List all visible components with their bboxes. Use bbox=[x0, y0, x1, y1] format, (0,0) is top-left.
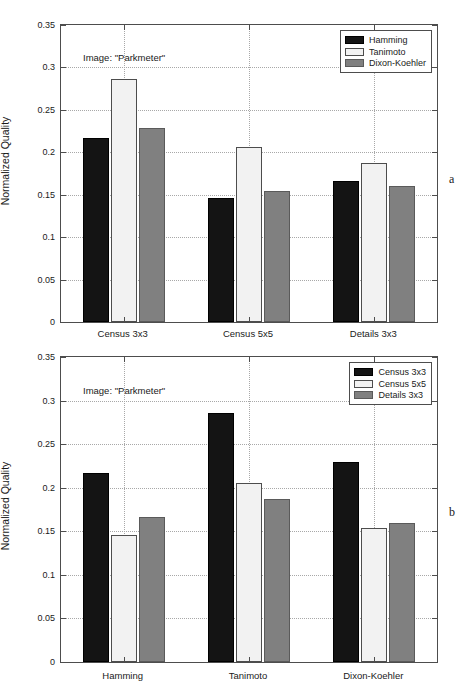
legend-swatch bbox=[354, 391, 373, 399]
legend-label: Census 5x5 bbox=[378, 379, 426, 389]
x-tick-mark bbox=[249, 25, 250, 30]
bar bbox=[236, 147, 262, 322]
figure: Normalized Quality 00.050.10.150.20.250.… bbox=[0, 0, 473, 699]
bar bbox=[361, 528, 387, 662]
y-tick-label: 0.15 bbox=[37, 526, 55, 536]
y-axis-label-a: Normalized Quality bbox=[0, 117, 11, 206]
y-axis-label-b: Normalized Quality bbox=[0, 462, 11, 551]
y-tick-mark bbox=[432, 152, 437, 153]
legend-item: Dixon-Koehler bbox=[345, 58, 426, 69]
legend-swatch bbox=[345, 59, 364, 67]
y-tick-label: 0.25 bbox=[37, 439, 55, 449]
x-tick-mark bbox=[249, 357, 250, 362]
y-tick-label: 0.35 bbox=[37, 20, 55, 30]
legend-label: Dixon-Koehler bbox=[369, 58, 426, 68]
plot-annotation: Image: "Parkmeter" bbox=[83, 385, 165, 396]
x-tick-label: Hamming bbox=[102, 670, 143, 681]
bar bbox=[264, 191, 290, 322]
gridline-horizontal bbox=[61, 444, 437, 445]
x-tick-label: Details 3x3 bbox=[350, 328, 397, 339]
y-tick-mark bbox=[432, 195, 437, 196]
y-tick-mark bbox=[61, 618, 66, 619]
y-tick-mark bbox=[61, 322, 66, 323]
bar bbox=[139, 517, 165, 662]
y-tick-mark bbox=[432, 25, 437, 26]
y-tick-label: 0.2 bbox=[42, 147, 55, 157]
y-tick-label: 0.05 bbox=[37, 275, 55, 285]
bar bbox=[83, 138, 109, 322]
y-tick-mark bbox=[61, 401, 66, 402]
x-tick-mark bbox=[249, 317, 250, 322]
x-tick-label: Tanimoto bbox=[229, 670, 268, 681]
panel-a: Normalized Quality 00.050.10.150.20.250.… bbox=[0, 0, 473, 340]
x-tick-label: Census 5x5 bbox=[223, 328, 273, 339]
legend-swatch bbox=[354, 368, 373, 376]
bar bbox=[264, 499, 290, 662]
x-tick-mark bbox=[374, 657, 375, 662]
legend: Census 3x3Census 5x5Details 3x3 bbox=[349, 362, 432, 405]
legend-item: Hamming bbox=[345, 35, 426, 46]
y-tick-mark bbox=[61, 195, 66, 196]
y-tick-mark bbox=[61, 488, 66, 489]
panel-letter-a: a bbox=[449, 172, 454, 187]
panel-letter-b: b bbox=[449, 505, 455, 520]
y-tick-mark bbox=[432, 618, 437, 619]
y-tick-mark bbox=[61, 444, 66, 445]
panel-b: Normalized Quality 00.050.10.150.20.250.… bbox=[0, 340, 473, 699]
x-tick-label: Census 3x3 bbox=[98, 328, 148, 339]
bar bbox=[236, 483, 262, 663]
x-tick-label: Dixon-Koehler bbox=[343, 670, 403, 681]
x-tick-mark bbox=[124, 357, 125, 362]
y-tick-mark bbox=[61, 67, 66, 68]
y-tick-label: 0 bbox=[50, 317, 55, 327]
x-tick-mark bbox=[124, 657, 125, 662]
plot-area-a: 00.050.10.150.20.250.30.35HammingTanimot… bbox=[60, 24, 438, 323]
y-tick-mark bbox=[432, 280, 437, 281]
y-tick-mark bbox=[61, 280, 66, 281]
bar bbox=[389, 186, 415, 322]
y-tick-mark bbox=[432, 322, 437, 323]
y-tick-label: 0.3 bbox=[42, 396, 55, 406]
y-tick-label: 0.1 bbox=[42, 232, 55, 242]
y-tick-label: 0.1 bbox=[42, 570, 55, 580]
bar bbox=[333, 462, 359, 662]
y-tick-mark bbox=[432, 488, 437, 489]
y-tick-mark bbox=[432, 662, 437, 663]
legend-label: Tanimoto bbox=[369, 47, 406, 57]
y-tick-label: 0.25 bbox=[37, 105, 55, 115]
plot-annotation: Image: "Parkmeter" bbox=[83, 52, 165, 63]
y-tick-mark bbox=[432, 357, 437, 358]
y-tick-mark bbox=[432, 531, 437, 532]
y-tick-mark bbox=[61, 152, 66, 153]
legend-item: Tanimoto bbox=[345, 46, 426, 57]
bar bbox=[139, 128, 165, 322]
legend: HammingTanimotoDixon-Koehler bbox=[340, 30, 432, 73]
y-tick-label: 0.3 bbox=[42, 62, 55, 72]
y-tick-label: 0.35 bbox=[37, 352, 55, 362]
bar bbox=[208, 198, 234, 322]
bar bbox=[83, 473, 109, 662]
y-tick-label: 0.15 bbox=[37, 190, 55, 200]
plot-area-b: 00.050.10.150.20.250.30.35Census 3x3Cens… bbox=[60, 356, 438, 663]
x-tick-mark bbox=[124, 25, 125, 30]
x-tick-mark bbox=[374, 317, 375, 322]
y-tick-mark bbox=[61, 662, 66, 663]
bar bbox=[111, 79, 137, 322]
bar bbox=[111, 535, 137, 662]
legend-label: Hamming bbox=[369, 35, 408, 45]
y-tick-mark bbox=[432, 237, 437, 238]
y-tick-mark bbox=[61, 110, 66, 111]
legend-swatch bbox=[345, 36, 364, 44]
y-tick-mark bbox=[432, 401, 437, 402]
bar bbox=[389, 523, 415, 662]
legend-item: Census 5x5 bbox=[354, 378, 426, 389]
y-tick-mark bbox=[61, 357, 66, 358]
legend-item: Details 3x3 bbox=[354, 390, 426, 401]
x-tick-mark bbox=[249, 657, 250, 662]
bar bbox=[208, 413, 234, 662]
y-tick-label: 0 bbox=[50, 657, 55, 667]
bar bbox=[333, 181, 359, 322]
bar bbox=[361, 163, 387, 322]
x-tick-mark bbox=[124, 317, 125, 322]
legend-label: Details 3x3 bbox=[378, 390, 423, 400]
